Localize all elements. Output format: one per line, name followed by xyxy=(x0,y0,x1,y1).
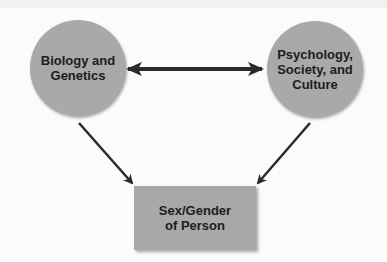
node-label: Sex/Gender of Person xyxy=(159,203,231,233)
node-label: Biology and Genetics xyxy=(41,53,115,83)
node-label: Psychology, Society, and Culture xyxy=(277,47,353,92)
arrow-psychology-to-outcome xyxy=(258,123,310,183)
arrow-biology-to-outcome xyxy=(79,123,132,183)
node-biology-and-genetics: Biology and Genetics xyxy=(30,20,126,116)
node-psychology-society-culture: Psychology, Society, and Culture xyxy=(267,21,363,117)
node-sex-gender-of-person: Sex/Gender of Person xyxy=(134,186,256,250)
